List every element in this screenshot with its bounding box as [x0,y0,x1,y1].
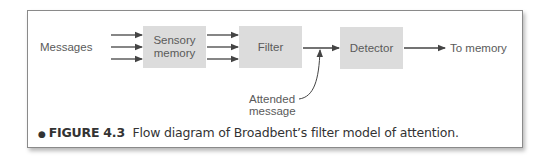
caption-bullet-icon: ● [38,129,46,139]
attended-curve-arrow-icon [299,50,320,99]
figure-number: FIGURE 4.3 [49,125,125,140]
caption-text: Flow diagram of Broadbent’s filter model… [132,125,458,140]
figure-caption: ●FIGURE 4.3 Flow diagram of Broadbent’s … [38,125,459,140]
